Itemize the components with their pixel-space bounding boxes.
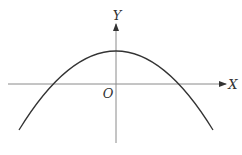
diagram-canvas bbox=[0, 0, 242, 155]
y-axis-label: Y bbox=[113, 9, 122, 22]
origin-label: O bbox=[103, 87, 114, 100]
x-axis-label: X bbox=[228, 78, 237, 91]
